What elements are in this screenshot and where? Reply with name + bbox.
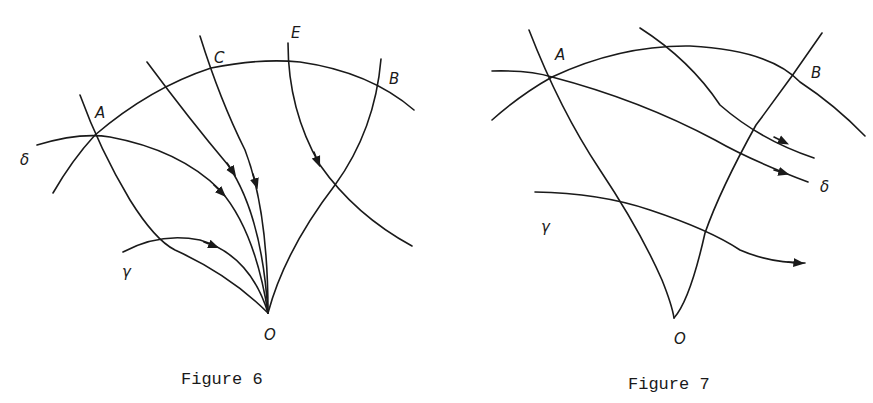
label-B: B [811,64,821,82]
figure-7: A B δ γ O Figure 7 [492,28,865,394]
label-A: A [554,46,565,64]
label-gamma: γ [541,218,551,236]
curve-A-to-O [529,30,674,318]
arrow-second-icon [227,163,233,172]
curve-A-to-O [80,95,268,313]
label-E: E [291,24,301,42]
arrow-delta-icon [214,185,222,193]
label-O: O [674,330,686,348]
label-B: B [389,70,399,88]
label-O: O [264,326,276,344]
caption-figure-7: Figure 7 [628,375,710,394]
curve-delta [492,71,808,182]
label-delta: δ [20,151,29,169]
label-delta: δ [820,178,829,196]
curve-delta [37,136,268,313]
curve-gamma [123,238,268,313]
label-A: A [94,104,105,122]
curve-upper [640,28,814,158]
figures-canvas: A C E B δ γ O Figure 6 A B δ γ O Figure … [0,0,873,403]
caption-figure-6: Figure 6 [181,370,263,389]
figure-6: A C E B δ γ O Figure 6 [20,24,414,389]
arrow-E-icon [314,152,318,162]
label-C: C [214,49,225,67]
label-gamma: γ [122,263,132,281]
curve-gamma [535,192,805,263]
curve-B [268,59,381,313]
arrow-gamma-icon [788,262,799,263]
